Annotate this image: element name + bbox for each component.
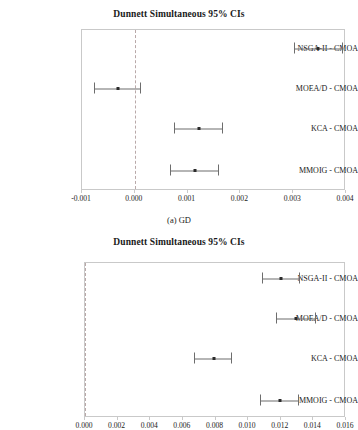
interval-center-marker (212, 357, 215, 360)
x-tick-label: 0.002 (108, 421, 125, 430)
reference-line-zero (85, 263, 86, 416)
x-tick-mark (81, 190, 82, 193)
x-tick-label: 0.004 (336, 194, 353, 203)
x-tick-label: 0.000 (75, 421, 92, 430)
x-tick-label: 0.004 (141, 421, 158, 430)
interval-cap-left (262, 273, 263, 284)
x-tick-label: 0.008 (206, 421, 223, 430)
x-tick-mark (134, 190, 135, 193)
figure-gd: Dunnett Simultaneous 95% CIs NSGA-II - C… (0, 0, 358, 215)
confidence-interval (260, 395, 298, 406)
figure-second: (a) GD Dunnett Simultaneous 95% CIs NSGA… (0, 215, 358, 427)
interval-cap-left (260, 395, 261, 406)
interval-center-marker (117, 87, 120, 90)
row-label-moea-d: MOEA/D - CMOA (281, 84, 358, 93)
x-tick-mark (182, 417, 183, 420)
x-tick-label: 0.000 (125, 194, 142, 203)
row-label-kca: KCA - CMOA (278, 354, 358, 363)
x-tick-label: 0.001 (178, 194, 195, 203)
confidence-interval (94, 83, 142, 94)
confidence-interval (194, 353, 232, 364)
confidence-interval (276, 313, 315, 324)
x-tick-mark (345, 190, 346, 193)
confidence-interval (262, 273, 300, 284)
x-tick-mark (280, 417, 281, 420)
x-tick-mark (345, 417, 346, 420)
interval-cap-right (342, 43, 343, 54)
x-tick-mark (187, 190, 188, 193)
confidence-interval (174, 123, 223, 134)
interval-cap-right (315, 313, 316, 324)
interval-cap-right (218, 165, 219, 176)
interval-cap-left (174, 123, 175, 134)
interval-cap-left (276, 313, 277, 324)
interval-center-marker (198, 127, 201, 130)
x-tick-label: 0.003 (284, 194, 301, 203)
x-tick-label: 0.006 (173, 421, 190, 430)
interval-cap-right (299, 273, 300, 284)
x-tick-label: 0.016 (336, 421, 353, 430)
x-tick-mark (292, 190, 293, 193)
x-tick-label: -0.001 (71, 194, 91, 203)
x-tick-label: 0.010 (239, 421, 256, 430)
interval-center-marker (295, 317, 298, 320)
interval-center-marker (193, 169, 196, 172)
x-tick-label: 0.014 (304, 421, 321, 430)
x-tick-mark (215, 417, 216, 420)
x-tick-label: 0.012 (271, 421, 288, 430)
x-tick-mark (117, 417, 118, 420)
interval-center-marker (279, 277, 282, 280)
x-tick-mark (84, 417, 85, 420)
interval-cap-left (294, 43, 295, 54)
interval-cap-left (194, 353, 195, 364)
interval-cap-left (94, 83, 95, 94)
x-tick-mark (149, 417, 150, 420)
x-tick-label: 0.002 (231, 194, 248, 203)
x-tick-mark (239, 190, 240, 193)
interval-cap-right (140, 83, 141, 94)
reference-line-zero (135, 30, 136, 189)
interval-center-marker (278, 399, 281, 402)
plot-area-second: NSGA-II - CMOAMOEA/D - CMOAKCA - CMOAMMO… (0, 215, 358, 427)
interval-cap-right (298, 395, 299, 406)
confidence-interval (294, 43, 343, 54)
confidence-interval (170, 165, 219, 176)
x-tick-mark (312, 417, 313, 420)
plot-frame-second (84, 262, 345, 417)
interval-cap-right (231, 353, 232, 364)
interval-cap-right (222, 123, 223, 134)
plot-area-gd: NSGA-II - CMOAMOEA/D - CMOAKCA - CMOAMMO… (0, 0, 358, 215)
row-label-kca: KCA - CMOA (281, 124, 358, 133)
interval-cap-left (170, 165, 171, 176)
x-tick-mark (247, 417, 248, 420)
interval-center-marker (317, 47, 320, 50)
row-label-mmoig: MMOIG - CMOA (281, 166, 358, 175)
